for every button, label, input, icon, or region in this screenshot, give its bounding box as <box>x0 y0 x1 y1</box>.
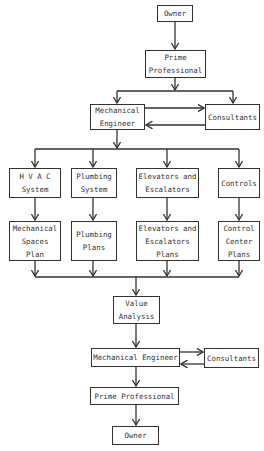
node-prime-professional-top: Prime Professional <box>145 50 206 78</box>
node-owner-bottom: Owner <box>112 426 159 445</box>
node-hvac-system: H V A C System <box>9 168 61 198</box>
node-consultants-bottom: Consultants <box>204 348 259 368</box>
node-mechanical-engineer-top: Mechanical Engineer <box>90 104 145 130</box>
node-elevators-escalators-plans: Elevators and Escalators Plans <box>136 221 199 261</box>
node-controls: Controls <box>218 168 260 198</box>
node-owner-top: Owner <box>157 5 193 22</box>
node-control-center-plans: Control Center Plans <box>218 221 260 261</box>
node-prime-professional-bottom: Prime Professional <box>90 387 179 405</box>
node-value-analysis: Value Analysis <box>113 296 160 324</box>
node-consultants-top: Consultants <box>205 104 260 130</box>
node-mechanical-engineer-bottom: Mechanical Engineer <box>91 348 180 367</box>
node-plumbing-system: Plumbing System <box>71 168 117 198</box>
node-plumbing-plans: Plumbing Plans <box>71 221 117 261</box>
node-mechanical-spaces-plan: Mechanical Spaces Plan <box>9 221 61 261</box>
node-elevators-escalators: Elevators and Escalators <box>136 168 199 198</box>
